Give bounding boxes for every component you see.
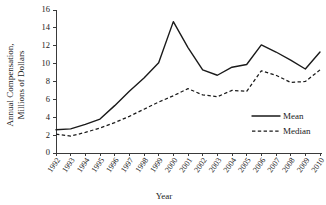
x-tick-label: 1996 <box>104 156 121 174</box>
x-tick-label: 2002 <box>192 156 209 174</box>
x-tick-label: 1995 <box>90 156 107 174</box>
y-axis-ticks: 0246810121416 <box>42 4 57 157</box>
line-chart: Annual Compensation, Millions of Dollars… <box>0 0 326 205</box>
legend-label-mean: Mean <box>283 111 304 121</box>
x-axis-title: Year <box>156 191 173 201</box>
legend: Mean Median <box>252 111 311 136</box>
x-tick-label: 2009 <box>295 156 312 174</box>
y-axis-title-line-1: Annual Compensation, <box>5 44 15 127</box>
x-tick-label: 2005 <box>236 156 253 174</box>
y-tick-label: 4 <box>46 112 51 122</box>
y-tick-label: 0 <box>46 147 50 157</box>
series-line-median <box>56 70 320 136</box>
y-axis-title-line-2: Millions of Dollars <box>16 50 26 119</box>
x-tick-label: 2000 <box>163 156 180 174</box>
y-tick-label: 2 <box>46 130 50 140</box>
x-tick-label: 1998 <box>134 156 151 174</box>
chart-figure: Annual Compensation, Millions of Dollars… <box>0 0 326 205</box>
x-tick-label: 1992 <box>46 156 63 174</box>
x-tick-label: 1997 <box>119 156 136 174</box>
y-axis-title: Annual Compensation, Millions of Dollars <box>5 44 26 127</box>
y-tick-label: 14 <box>42 22 51 32</box>
data-series-group <box>56 22 320 136</box>
x-tick-label: 1993 <box>60 156 77 174</box>
y-tick-label: 8 <box>46 76 50 86</box>
y-tick-label: 12 <box>42 40 51 50</box>
legend-label-median: Median <box>283 126 311 136</box>
x-tick-label: 2010 <box>310 156 326 174</box>
x-tick-label: 2006 <box>251 156 268 174</box>
y-tick-label: 16 <box>42 4 51 14</box>
series-line-mean <box>56 22 320 130</box>
x-tick-label: 2001 <box>178 156 195 174</box>
x-tick-label: 2004 <box>222 156 239 174</box>
x-tick-label: 1994 <box>75 156 92 174</box>
x-tick-label: 1999 <box>148 156 165 174</box>
x-axis-ticks: 1992199319941995199619971998199920002001… <box>46 153 326 174</box>
x-tick-label: 2003 <box>207 156 224 174</box>
x-tick-label: 2008 <box>280 156 297 174</box>
x-tick-label: 2007 <box>266 156 283 174</box>
y-tick-label: 10 <box>42 58 51 68</box>
y-tick-label: 6 <box>46 94 50 104</box>
